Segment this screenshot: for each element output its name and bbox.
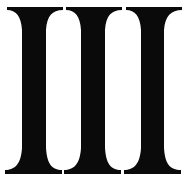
roman-numeral-three: III (0, 0, 186, 179)
letter-i-1 (5, 7, 63, 174)
letter-i-2 (64, 7, 122, 174)
letter-i-3 (124, 7, 182, 174)
